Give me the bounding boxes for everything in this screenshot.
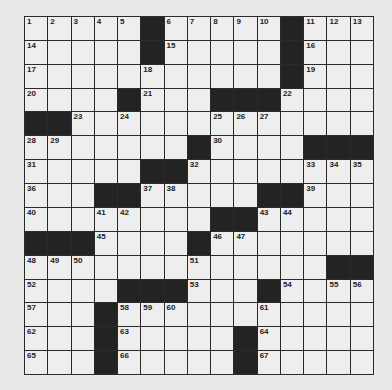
grid-cell[interactable]: 30 — [211, 136, 233, 159]
grid-cell[interactable]: 47 — [234, 232, 256, 255]
grid-cell[interactable] — [188, 112, 210, 135]
grid-cell[interactable] — [351, 65, 373, 88]
grid-cell[interactable]: 54 — [281, 280, 303, 303]
grid-cell[interactable]: 42 — [118, 208, 140, 231]
grid-cell[interactable]: 29 — [48, 136, 70, 159]
grid-cell[interactable]: 60 — [165, 303, 187, 326]
grid-cell[interactable] — [234, 160, 256, 183]
grid-cell[interactable] — [95, 89, 117, 112]
grid-cell[interactable]: 44 — [281, 208, 303, 231]
grid-cell[interactable] — [304, 256, 326, 279]
grid-cell[interactable] — [72, 327, 94, 350]
grid-cell[interactable]: 61 — [258, 303, 280, 326]
grid-cell[interactable]: 26 — [234, 112, 256, 135]
grid-cell[interactable]: 14 — [25, 41, 47, 64]
grid-cell[interactable]: 28 — [25, 136, 47, 159]
grid-cell[interactable] — [234, 256, 256, 279]
grid-cell[interactable]: 12 — [327, 17, 349, 40]
grid-cell[interactable] — [234, 184, 256, 207]
grid-cell[interactable] — [351, 327, 373, 350]
grid-cell[interactable] — [188, 208, 210, 231]
grid-cell[interactable] — [95, 112, 117, 135]
grid-cell[interactable] — [211, 351, 233, 374]
grid-cell[interactable] — [72, 280, 94, 303]
grid-cell[interactable] — [141, 327, 163, 350]
grid-cell[interactable] — [281, 303, 303, 326]
grid-cell[interactable]: 16 — [304, 41, 326, 64]
grid-cell[interactable] — [141, 256, 163, 279]
grid-cell[interactable] — [327, 65, 349, 88]
grid-cell[interactable] — [281, 327, 303, 350]
grid-cell[interactable] — [281, 112, 303, 135]
grid-cell[interactable]: 17 — [25, 65, 47, 88]
grid-cell[interactable] — [304, 351, 326, 374]
grid-cell[interactable]: 19 — [304, 65, 326, 88]
grid-cell[interactable] — [72, 351, 94, 374]
grid-cell[interactable] — [304, 280, 326, 303]
grid-cell[interactable]: 34 — [327, 160, 349, 183]
grid-cell[interactable] — [351, 208, 373, 231]
grid-cell[interactable] — [351, 232, 373, 255]
grid-cell[interactable]: 57 — [25, 303, 47, 326]
grid-cell[interactable] — [258, 65, 280, 88]
grid-cell[interactable] — [141, 136, 163, 159]
grid-cell[interactable] — [304, 232, 326, 255]
grid-cell[interactable] — [258, 136, 280, 159]
grid-cell[interactable] — [304, 327, 326, 350]
grid-cell[interactable] — [188, 184, 210, 207]
grid-cell[interactable] — [95, 41, 117, 64]
grid-cell[interactable]: 46 — [211, 232, 233, 255]
grid-cell[interactable]: 5 — [118, 17, 140, 40]
grid-cell[interactable] — [327, 327, 349, 350]
grid-cell[interactable] — [258, 256, 280, 279]
grid-cell[interactable] — [327, 208, 349, 231]
grid-cell[interactable]: 35 — [351, 160, 373, 183]
grid-cell[interactable] — [95, 160, 117, 183]
grid-cell[interactable] — [211, 256, 233, 279]
grid-cell[interactable]: 63 — [118, 327, 140, 350]
grid-cell[interactable]: 36 — [25, 184, 47, 207]
grid-cell[interactable]: 3 — [72, 17, 94, 40]
grid-cell[interactable] — [141, 208, 163, 231]
grid-cell[interactable] — [188, 89, 210, 112]
grid-cell[interactable] — [141, 351, 163, 374]
grid-cell[interactable]: 53 — [188, 280, 210, 303]
grid-cell[interactable]: 21 — [141, 89, 163, 112]
grid-cell[interactable]: 11 — [304, 17, 326, 40]
grid-cell[interactable] — [95, 256, 117, 279]
grid-cell[interactable]: 51 — [188, 256, 210, 279]
grid-cell[interactable] — [141, 232, 163, 255]
grid-cell[interactable]: 50 — [72, 256, 94, 279]
grid-cell[interactable]: 67 — [258, 351, 280, 374]
grid-cell[interactable]: 20 — [25, 89, 47, 112]
grid-cell[interactable] — [234, 136, 256, 159]
grid-cell[interactable]: 27 — [258, 112, 280, 135]
grid-cell[interactable]: 2 — [48, 17, 70, 40]
grid-cell[interactable] — [327, 232, 349, 255]
grid-cell[interactable] — [118, 256, 140, 279]
grid-cell[interactable]: 52 — [25, 280, 47, 303]
grid-cell[interactable] — [258, 41, 280, 64]
grid-cell[interactable]: 24 — [118, 112, 140, 135]
grid-cell[interactable]: 66 — [118, 351, 140, 374]
grid-cell[interactable] — [118, 160, 140, 183]
grid-cell[interactable] — [48, 208, 70, 231]
grid-cell[interactable] — [211, 160, 233, 183]
grid-cell[interactable] — [72, 160, 94, 183]
grid-cell[interactable] — [351, 89, 373, 112]
grid-cell[interactable] — [72, 136, 94, 159]
grid-cell[interactable]: 56 — [351, 280, 373, 303]
grid-cell[interactable] — [258, 232, 280, 255]
grid-cell[interactable] — [351, 41, 373, 64]
grid-cell[interactable] — [234, 280, 256, 303]
grid-cell[interactable]: 15 — [165, 41, 187, 64]
grid-cell[interactable] — [118, 136, 140, 159]
grid-cell[interactable] — [304, 112, 326, 135]
grid-cell[interactable] — [165, 232, 187, 255]
grid-cell[interactable] — [211, 184, 233, 207]
grid-cell[interactable]: 38 — [165, 184, 187, 207]
grid-cell[interactable]: 59 — [141, 303, 163, 326]
grid-cell[interactable] — [48, 280, 70, 303]
grid-cell[interactable] — [165, 327, 187, 350]
grid-cell[interactable]: 22 — [281, 89, 303, 112]
